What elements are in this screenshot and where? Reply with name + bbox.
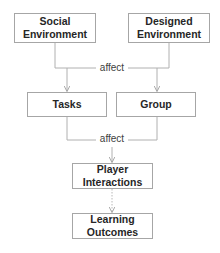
node-learning-outcomes: Learning Outcomes [72,213,153,239]
node-label-line: Environment [23,28,87,41]
node-social-environment: Social Environment [14,13,96,43]
node-label-line: Social [23,15,87,28]
node-tasks: Tasks [27,92,107,117]
node-label-line: Group [140,98,172,111]
node-label-line: Environment [137,28,201,41]
node-designed-environment: Designed Environment [128,13,210,43]
node-group: Group [116,92,196,117]
node-label-line: Designed [137,15,201,28]
node-label-line: Outcomes [87,226,138,239]
node-player-interactions: Player Interactions [72,163,153,189]
node-label-line: Player [83,163,143,176]
node-label-line: Learning [87,213,138,226]
edge-label-affect-top: affect [97,62,127,74]
node-label-line: Interactions [83,176,143,189]
edge-label-affect-middle: affect [97,133,127,145]
node-label-line: Tasks [53,98,82,111]
